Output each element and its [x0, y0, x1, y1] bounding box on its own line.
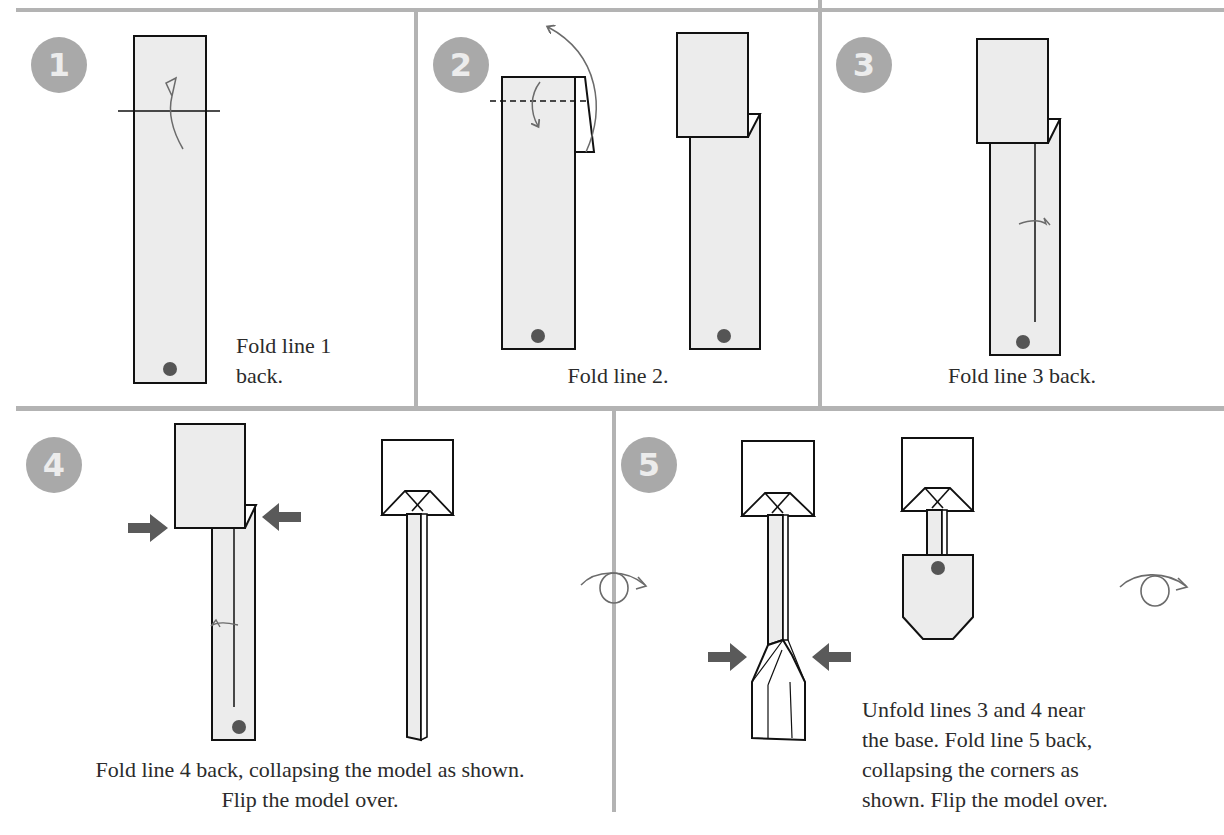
push-arrow-left-icon [812, 643, 851, 671]
paper-strip-result [690, 114, 760, 349]
caption-line: Fold line 3 back. [822, 361, 1222, 391]
step-4-art [128, 424, 453, 740]
push-arrow-right-icon [128, 514, 168, 542]
folded-top-square [977, 39, 1048, 143]
divider-2-3 [818, 0, 822, 410]
folding-diagram: 1 2 3 4 5 Fold line 1 back. Fold line 2.… [0, 0, 1224, 835]
paper-strip [134, 36, 206, 383]
flip-over-icon [1120, 575, 1187, 606]
strip-edge [783, 515, 788, 640]
paper-strip [990, 119, 1060, 355]
step-3-art [977, 39, 1060, 355]
step-1-art [118, 36, 220, 383]
strip-edge [421, 514, 427, 740]
folded-top-square [677, 33, 748, 137]
step-badge-3: 3 [836, 37, 892, 93]
reference-dot [232, 720, 246, 734]
step-3-caption: Fold line 3 back. [822, 361, 1222, 391]
step-5-caption: Unfold lines 3 and 4 near the base. Fold… [862, 695, 1108, 815]
stem-edge [942, 510, 947, 555]
caption-line: back. [236, 361, 331, 391]
step-4-caption: Fold line 4 back, collapsing the model a… [20, 755, 600, 815]
step-badge-1: 1 [31, 37, 87, 93]
caption-line: shown. Flip the model over. [862, 785, 1108, 815]
narrow-stem [927, 510, 942, 555]
paper-strip [502, 77, 575, 349]
caption-line: the base. Fold line 5 back, [862, 725, 1108, 755]
step-1-caption: Fold line 1 back. [236, 331, 331, 391]
top-divider [16, 8, 1224, 12]
reference-dot [931, 561, 945, 575]
caption-line: Unfold lines 3 and 4 near [862, 695, 1108, 725]
narrow-strip [407, 514, 421, 740]
reference-dot [531, 329, 545, 343]
collapsed-base [752, 640, 805, 740]
narrow-strip [768, 515, 783, 645]
reference-dot [717, 329, 731, 343]
divider-4-5 [612, 408, 616, 812]
step-badge-4: 4 [26, 437, 82, 493]
caption-line: collapsing the corners as [862, 755, 1108, 785]
folded-top-square [175, 424, 245, 528]
caption-line: Fold line 1 [236, 331, 331, 361]
step-2-art [490, 27, 760, 349]
caption-line: Flip the model over. [20, 785, 600, 815]
caption-line: Fold line 4 back, collapsing the model a… [20, 755, 600, 785]
step-2-caption: Fold line 2. [418, 361, 818, 391]
middle-divider [16, 406, 1224, 411]
push-arrow-left-icon [262, 503, 301, 531]
reference-dot [163, 362, 177, 376]
step-badge-2: 2 [433, 37, 489, 93]
caption-line: Fold line 2. [418, 361, 818, 391]
push-arrow-right-icon [708, 643, 747, 671]
divider-1-2 [414, 8, 418, 410]
reference-dot [1016, 335, 1030, 349]
step-badge-5: 5 [621, 437, 677, 493]
